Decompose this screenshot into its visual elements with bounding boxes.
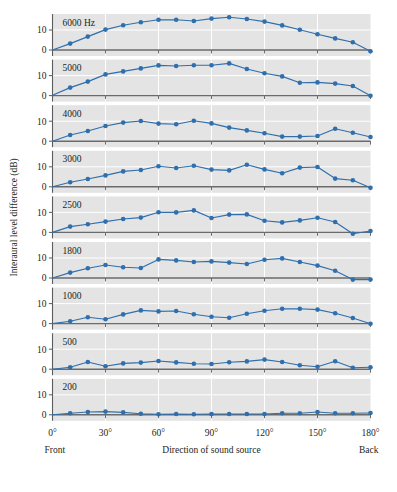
- data-point: [156, 121, 161, 126]
- data-point: [192, 119, 197, 124]
- data-point: [139, 360, 144, 365]
- x-tick-label: 90°: [205, 428, 219, 438]
- data-point: [368, 229, 373, 234]
- data-point: [315, 365, 320, 370]
- data-point: [280, 411, 285, 416]
- data-point: [192, 362, 197, 367]
- data-point: [174, 64, 179, 69]
- data-point: [192, 260, 197, 265]
- data-point: [315, 263, 320, 268]
- panel-2500: 0102500: [37, 196, 373, 238]
- x-axis-front-label: Front: [45, 445, 66, 455]
- data-point: [68, 365, 73, 370]
- panel-group: 0106000 Hz010500001040000103000010250001…: [37, 14, 373, 421]
- data-point: [139, 266, 144, 271]
- data-point: [280, 74, 285, 79]
- data-point: [209, 315, 214, 320]
- data-point: [209, 167, 214, 172]
- data-point: [245, 412, 250, 417]
- data-point: [315, 410, 320, 415]
- data-point: [68, 224, 73, 229]
- panel-500: 010500: [37, 333, 373, 375]
- data-point: [262, 167, 267, 172]
- data-point: [351, 316, 356, 321]
- data-point: [298, 81, 303, 86]
- data-point: [227, 15, 232, 20]
- data-point: [174, 210, 179, 215]
- data-point: [68, 411, 73, 416]
- y-tick-label: 10: [37, 117, 47, 127]
- y-tick-label: 10: [37, 71, 47, 81]
- data-point: [68, 133, 73, 138]
- data-point: [156, 63, 161, 68]
- data-point: [86, 79, 91, 84]
- data-point: [333, 359, 338, 364]
- data-point: [86, 360, 91, 365]
- data-point: [192, 208, 197, 213]
- data-point: [351, 84, 356, 89]
- data-point: [368, 49, 373, 54]
- data-point: [192, 412, 197, 417]
- chart-figure: 0106000 Hz010500001040000103000010250001…: [0, 0, 397, 492]
- data-point: [121, 410, 126, 415]
- data-point: [262, 309, 267, 314]
- data-point: [174, 360, 179, 365]
- data-point: [245, 262, 250, 267]
- x-tick-label: 120°: [255, 428, 273, 438]
- data-point: [262, 219, 267, 224]
- data-point: [262, 19, 267, 24]
- panel-frequency-label: 5000: [63, 63, 82, 73]
- data-point: [209, 121, 214, 126]
- data-point: [262, 357, 267, 362]
- data-point: [333, 269, 338, 274]
- data-point: [86, 222, 91, 227]
- data-point: [139, 308, 144, 313]
- data-point: [368, 322, 373, 327]
- data-point: [156, 257, 161, 262]
- data-point: [192, 164, 197, 169]
- data-point: [156, 309, 161, 314]
- data-point: [280, 307, 285, 312]
- panel-5000: 0105000: [37, 60, 373, 102]
- data-point: [174, 122, 179, 127]
- data-point: [245, 128, 250, 133]
- data-point: [174, 258, 179, 263]
- data-point: [262, 71, 267, 76]
- data-point: [351, 366, 356, 371]
- data-point: [121, 69, 126, 74]
- data-point: [333, 81, 338, 86]
- data-point: [333, 127, 338, 132]
- data-point: [368, 365, 373, 370]
- data-point: [103, 219, 108, 224]
- data-point: [139, 412, 144, 417]
- panel-frequency-label: 2500: [63, 200, 82, 210]
- data-point: [351, 131, 356, 136]
- data-point: [368, 186, 373, 191]
- y-tick-label: 0: [42, 273, 47, 283]
- y-tick-label: 0: [42, 319, 47, 329]
- data-point: [86, 410, 91, 415]
- data-point: [227, 125, 232, 130]
- data-point: [103, 263, 108, 268]
- y-tick-label: 0: [42, 91, 47, 101]
- data-point: [280, 220, 285, 225]
- data-point: [315, 216, 320, 221]
- data-point: [68, 85, 73, 90]
- interaural-level-difference-chart: 0106000 Hz010500001040000103000010250001…: [0, 0, 397, 492]
- data-point: [103, 364, 108, 369]
- data-point: [333, 311, 338, 316]
- data-point: [156, 359, 161, 364]
- data-point: [262, 412, 267, 417]
- data-point: [227, 61, 232, 66]
- data-point: [174, 18, 179, 23]
- data-point: [103, 317, 108, 322]
- panel-frequency-label: 4000: [63, 109, 82, 119]
- data-point: [368, 135, 373, 140]
- y-tick-label: 0: [42, 228, 47, 238]
- data-point: [280, 360, 285, 365]
- y-tick-label: 0: [42, 365, 47, 375]
- y-tick-label: 10: [37, 162, 47, 172]
- data-point: [209, 259, 214, 264]
- data-point: [262, 258, 267, 263]
- data-point: [209, 16, 214, 21]
